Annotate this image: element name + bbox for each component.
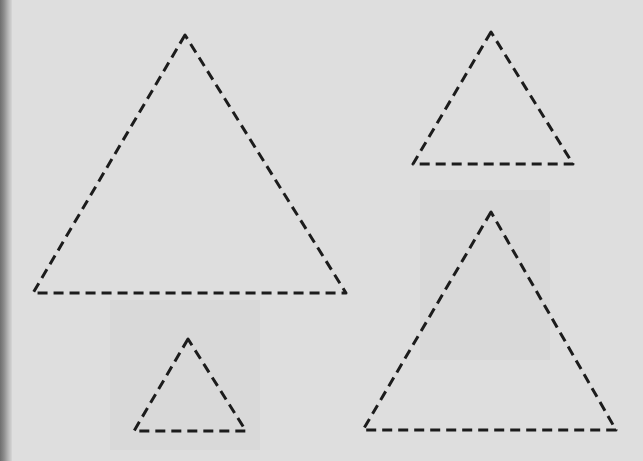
worksheet — [0, 0, 643, 461]
triangle-large-top-left — [33, 35, 346, 293]
triangle-small-bottom-left — [134, 339, 246, 431]
triangle-large-bottom-right — [363, 212, 616, 430]
triangles-canvas — [0, 0, 643, 461]
triangle-medium-top-right — [413, 32, 573, 164]
